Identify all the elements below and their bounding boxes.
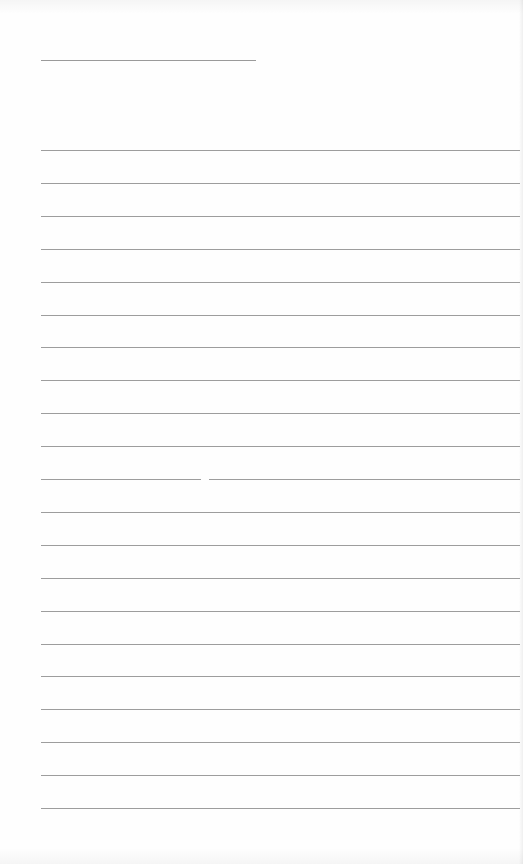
title-underline [41,60,256,61]
ruled-line [41,808,520,809]
ruled-line [41,742,520,743]
ruled-line [41,611,520,612]
page-edge-shadow [519,0,523,864]
ruled-line [41,775,520,776]
line-break-gap [201,479,209,480]
ruled-line [41,479,520,480]
ruled-line [41,216,520,217]
ruled-line [41,545,520,546]
ruled-line [41,676,520,677]
ruled-line [41,249,520,250]
ruled-line [41,578,520,579]
ruled-line [41,282,520,283]
ruled-line [41,446,520,447]
ruled-line [41,512,520,513]
ruled-line [41,644,520,645]
ruled-line [41,315,520,316]
ruled-line [41,380,520,381]
ruled-line [41,413,520,414]
ruled-line [41,347,520,348]
ruled-line [41,183,520,184]
lined-paper-page [0,0,523,864]
ruled-line [41,150,520,151]
ruled-line [41,709,520,710]
